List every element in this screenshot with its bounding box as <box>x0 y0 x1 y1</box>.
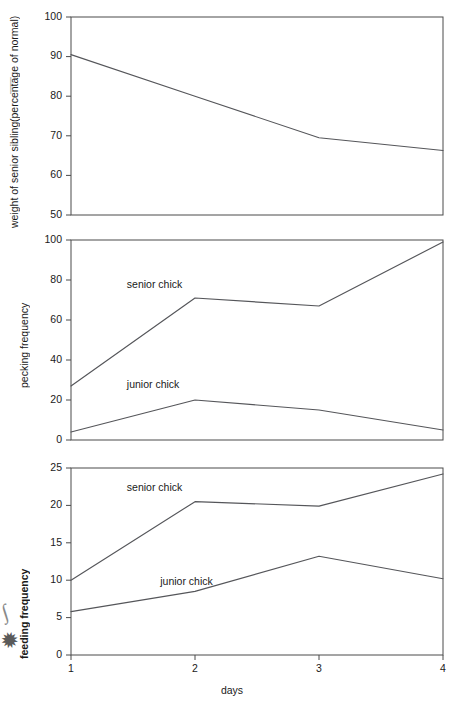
y-axis-tick-label: 20 <box>50 393 62 405</box>
y-axis-tick-label: 10 <box>50 573 62 585</box>
plot-frame <box>71 17 443 215</box>
panel-weight-of-senior-sibling: 5060708090100 weight of senior sibling (… <box>0 0 464 228</box>
y-axis-tick-label: 80 <box>50 89 62 101</box>
x-axis-tick-label: 2 <box>192 662 198 674</box>
three-panel-line-figure: 5060708090100 weight of senior sibling (… <box>0 0 464 709</box>
y-axis-tick-label: 5 <box>56 610 62 622</box>
y-axis-tick-label: 60 <box>50 168 62 180</box>
plot-weight-of-senior-sibling: 5060708090100 <box>0 0 464 228</box>
series-label-senior-chick: senior chick <box>127 278 183 290</box>
y-axis-tick-label: 20 <box>50 498 62 510</box>
series-label-junior-chick: junior chick <box>159 575 213 587</box>
plot-frame <box>71 240 443 440</box>
y-axis-tick-label: 40 <box>50 353 62 365</box>
plot-frame <box>71 468 443 655</box>
series-line-junior-chick <box>71 400 443 432</box>
y-axis-tick-label: 90 <box>50 49 62 61</box>
plot-pecking-frequency: 020406080100senior chickjunior chick <box>0 228 464 453</box>
x-axis-tick-label: 3 <box>316 662 322 674</box>
x-axis-tick-label: 4 <box>440 662 446 674</box>
y-axis-tick-label: 70 <box>50 129 62 141</box>
y-axis-tick-label: 100 <box>44 233 62 245</box>
x-axis-label: days <box>0 684 464 696</box>
panel-feeding-frequency: 05101520251234senior chickjunior chick <box>0 453 464 709</box>
y-axis-tick-label: 0 <box>56 433 62 445</box>
plot-feeding-frequency: 05101520251234senior chickjunior chick <box>0 453 464 709</box>
y-axis-tick-label: 80 <box>50 273 62 285</box>
y-axis-label-top-line1: weight of senior sibling <box>8 122 36 228</box>
panel-pecking-frequency: 020406080100senior chickjunior chick <box>0 228 464 453</box>
y-axis-tick-label: 0 <box>56 648 62 660</box>
y-axis-label-middle: pecking frequency <box>18 285 32 405</box>
y-axis-label-top: weight of senior sibling (percentage of … <box>8 52 36 192</box>
series-label-junior-chick: junior chick <box>126 378 180 390</box>
y-axis-label-top-line2: (percentage of normal) <box>8 16 36 122</box>
series-line-weight-of-senior-sibling <box>71 55 443 151</box>
series-line-senior-chick <box>71 242 443 386</box>
series-line-junior-chick <box>71 556 443 611</box>
y-axis-tick-label: 100 <box>44 10 62 22</box>
x-axis-tick-label: 1 <box>68 662 74 674</box>
y-axis-tick-label: 50 <box>50 208 62 220</box>
y-axis-label-bottom: feeding frequency <box>18 555 32 673</box>
scan-artifact-mark-top: │ <box>6 78 16 94</box>
y-axis-tick-label: 60 <box>50 313 62 325</box>
series-label-senior-chick: senior chick <box>127 481 183 493</box>
y-axis-tick-label: 15 <box>50 536 62 548</box>
y-axis-tick-label: 25 <box>50 461 62 473</box>
